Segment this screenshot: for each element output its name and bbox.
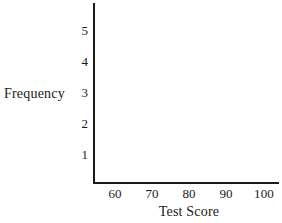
x-axis-tick-labels: 60 70 80 90 100 (0, 187, 282, 203)
x-tick-label: 60 (108, 187, 121, 200)
y-axis-title: Frequency (4, 86, 65, 101)
y-tick-label: 4 (0, 55, 88, 68)
y-tick-label: 1 (0, 148, 88, 161)
x-tick-label: 100 (254, 187, 274, 200)
x-tick-label: 90 (219, 187, 232, 200)
y-tick-label: 5 (0, 24, 88, 37)
y-tick-label: 2 (0, 117, 88, 130)
x-tick-label: 80 (182, 187, 195, 200)
plot-area (95, 3, 279, 182)
x-axis-title: Test Score (0, 204, 282, 219)
x-axis-line (93, 182, 279, 184)
x-tick-label: 70 (145, 187, 158, 200)
chart-figure: 5 4 3 2 1 60 70 80 90 100 Frequency Test… (0, 0, 282, 223)
